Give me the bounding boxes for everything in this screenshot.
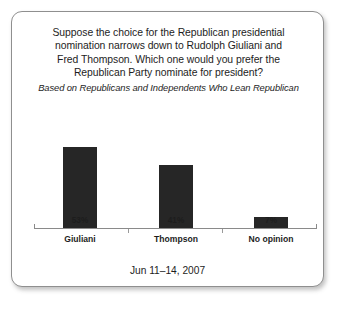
- axis-tick-divider-1: [128, 229, 129, 233]
- chart-title-block: Suppose the choice for the Republican pr…: [26, 26, 311, 94]
- page-title-line-2: nomination narrows down to Rudolph Giuli…: [26, 39, 311, 52]
- plot-area: 53% 41% 7%: [34, 117, 317, 229]
- bar-value-giuliani: 53%: [72, 216, 88, 225]
- page-title: Suppose the choice for the Republican pr…: [26, 26, 311, 39]
- x-tick-label-thompson: Thompson: [154, 234, 198, 244]
- bar-value-no-opinion: 7%: [265, 216, 277, 225]
- page-title-line-4: Republican Party nominate for president?: [26, 66, 311, 79]
- chart-card: Suppose the choice for the Republican pr…: [11, 11, 324, 287]
- axis-tick-left-end: [34, 224, 35, 229]
- x-tick-label-no-opinion: No opinion: [249, 234, 294, 244]
- bar-value-thompson: 41%: [168, 216, 184, 225]
- axis-tick-divider-2: [222, 229, 223, 233]
- page-title-line-3: Fred Thompson. Which one would you prefe…: [26, 53, 311, 66]
- chart-date-footer: Jun 11–14, 2007: [12, 265, 323, 276]
- chart-subtitle: Based on Republicans and Independents Wh…: [26, 81, 311, 94]
- x-axis-line: [34, 228, 317, 229]
- x-axis-tick-labels: Giuliani Thompson No opinion: [34, 234, 317, 248]
- x-tick-label-giuliani: Giuliani: [64, 234, 96, 244]
- axis-tick-right-end: [316, 224, 317, 229]
